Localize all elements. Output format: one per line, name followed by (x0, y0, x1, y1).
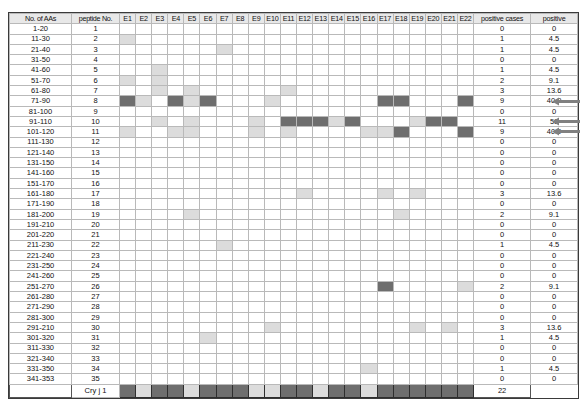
matrix-cell-E11-p20[interactable] (280, 219, 296, 229)
matrix-cell-E17-p33[interactable] (377, 353, 393, 363)
matrix-cell-E20-p5[interactable] (425, 65, 441, 75)
matrix-cell-E3-p11[interactable] (152, 127, 168, 137)
matrix-cell-E15-p11[interactable] (345, 127, 361, 137)
matrix-cell-E17-p32[interactable] (377, 343, 393, 353)
matrix-cell-E16-p26[interactable] (361, 281, 377, 291)
matrix-cell-E18-p16[interactable] (393, 178, 409, 188)
matrix-cell-E13-p10[interactable] (313, 116, 329, 126)
matrix-cell-E22-p31[interactable] (457, 333, 473, 343)
matrix-cell-E6-p1[interactable] (200, 24, 216, 34)
matrix-cell-E11-p3[interactable] (280, 44, 296, 54)
matrix-cell-E16-p22[interactable] (361, 240, 377, 250)
matrix-cell-E13-p7[interactable] (313, 86, 329, 96)
matrix-cell-E13-p21[interactable] (313, 230, 329, 240)
matrix-cell-E22-p29[interactable] (457, 312, 473, 322)
matrix-cell-E4-p21[interactable] (168, 230, 184, 240)
matrix-cell-E4-p20[interactable] (168, 219, 184, 229)
matrix-cell-E20-p22[interactable] (425, 240, 441, 250)
matrix-cell-E8-p7[interactable] (232, 86, 248, 96)
matrix-cell-E14-p33[interactable] (329, 353, 345, 363)
matrix-cell-E5-p6[interactable] (184, 75, 200, 85)
matrix-cell-E21-p17[interactable] (441, 189, 457, 199)
matrix-cell-E4-p15[interactable] (168, 168, 184, 178)
matrix-cell-E13-p27[interactable] (313, 292, 329, 302)
matrix-cell-E13-p2[interactable] (313, 34, 329, 44)
matrix-cell-E9-p25[interactable] (248, 271, 264, 281)
matrix-cell-E11-p21[interactable] (280, 230, 296, 240)
matrix-cell-E1-p10[interactable] (120, 116, 136, 126)
matrix-cell-E5-p9[interactable] (184, 106, 200, 116)
matrix-cell-E7-p21[interactable] (216, 230, 232, 240)
matrix-cell-E7-p18[interactable] (216, 199, 232, 209)
matrix-cell-E8-p11[interactable] (232, 127, 248, 137)
matrix-cell-E7-p29[interactable] (216, 312, 232, 322)
matrix-cell-E19-p28[interactable] (409, 302, 425, 312)
matrix-cell-E8-p8[interactable] (232, 96, 248, 106)
matrix-cell-E7-p24[interactable] (216, 261, 232, 271)
matrix-cell-E6-p29[interactable] (200, 312, 216, 322)
matrix-cell-E6-p9[interactable] (200, 106, 216, 116)
matrix-cell-E5-p4[interactable] (184, 55, 200, 65)
matrix-cell-E5-p17[interactable] (184, 189, 200, 199)
matrix-cell-E19-p34[interactable] (409, 364, 425, 374)
matrix-cell-E20-p1[interactable] (425, 24, 441, 34)
matrix-cell-E9-p2[interactable] (248, 34, 264, 44)
matrix-cell-E9-p21[interactable] (248, 230, 264, 240)
matrix-cell-E6-p34[interactable] (200, 364, 216, 374)
matrix-cell-E10-p14[interactable] (264, 158, 280, 168)
matrix-cell-E8-p27[interactable] (232, 292, 248, 302)
matrix-cell-E4-p35[interactable] (168, 374, 184, 384)
matrix-cell-E19-p7[interactable] (409, 86, 425, 96)
matrix-cell-E21-p35[interactable] (441, 374, 457, 384)
cry-j-1-cell-E4[interactable] (168, 384, 184, 398)
matrix-cell-E5-p10[interactable] (184, 116, 200, 126)
matrix-cell-E19-p30[interactable] (409, 322, 425, 332)
matrix-cell-E8-p19[interactable] (232, 209, 248, 219)
matrix-cell-E6-p30[interactable] (200, 322, 216, 332)
matrix-cell-E12-p23[interactable] (297, 250, 313, 260)
matrix-cell-E12-p10[interactable] (297, 116, 313, 126)
matrix-cell-E1-p19[interactable] (120, 209, 136, 219)
matrix-cell-E16-p4[interactable] (361, 55, 377, 65)
matrix-cell-E5-p30[interactable] (184, 322, 200, 332)
matrix-cell-E3-p3[interactable] (152, 44, 168, 54)
matrix-cell-E6-p11[interactable] (200, 127, 216, 137)
matrix-cell-E8-p5[interactable] (232, 65, 248, 75)
matrix-cell-E15-p26[interactable] (345, 281, 361, 291)
matrix-cell-E5-p8[interactable] (184, 96, 200, 106)
matrix-cell-E22-p10[interactable] (457, 116, 473, 126)
matrix-cell-E16-p5[interactable] (361, 65, 377, 75)
matrix-cell-E2-p31[interactable] (136, 333, 152, 343)
matrix-cell-E2-p24[interactable] (136, 261, 152, 271)
matrix-cell-E1-p15[interactable] (120, 168, 136, 178)
matrix-cell-E18-p25[interactable] (393, 271, 409, 281)
matrix-cell-E3-p33[interactable] (152, 353, 168, 363)
matrix-cell-E11-p8[interactable] (280, 96, 296, 106)
matrix-cell-E5-p34[interactable] (184, 364, 200, 374)
matrix-cell-E15-p14[interactable] (345, 158, 361, 168)
matrix-cell-E14-p7[interactable] (329, 86, 345, 96)
matrix-cell-E10-p16[interactable] (264, 178, 280, 188)
matrix-cell-E12-p16[interactable] (297, 178, 313, 188)
matrix-cell-E11-p11[interactable] (280, 127, 296, 137)
matrix-cell-E18-p35[interactable] (393, 374, 409, 384)
matrix-cell-E18-p8[interactable] (393, 96, 409, 106)
matrix-cell-E7-p23[interactable] (216, 250, 232, 260)
matrix-cell-E17-p18[interactable] (377, 199, 393, 209)
matrix-cell-E10-p26[interactable] (264, 281, 280, 291)
matrix-cell-E13-p12[interactable] (313, 137, 329, 147)
matrix-cell-E21-p31[interactable] (441, 333, 457, 343)
matrix-cell-E21-p26[interactable] (441, 281, 457, 291)
matrix-cell-E1-p1[interactable] (120, 24, 136, 34)
matrix-cell-E8-p31[interactable] (232, 333, 248, 343)
matrix-cell-E17-p22[interactable] (377, 240, 393, 250)
matrix-cell-E18-p5[interactable] (393, 65, 409, 75)
matrix-cell-E10-p5[interactable] (264, 65, 280, 75)
matrix-cell-E14-p3[interactable] (329, 44, 345, 54)
matrix-cell-E9-p6[interactable] (248, 75, 264, 85)
matrix-cell-E10-p19[interactable] (264, 209, 280, 219)
matrix-cell-E9-p20[interactable] (248, 219, 264, 229)
matrix-cell-E4-p11[interactable] (168, 127, 184, 137)
matrix-cell-E9-p26[interactable] (248, 281, 264, 291)
matrix-cell-E9-p32[interactable] (248, 343, 264, 353)
